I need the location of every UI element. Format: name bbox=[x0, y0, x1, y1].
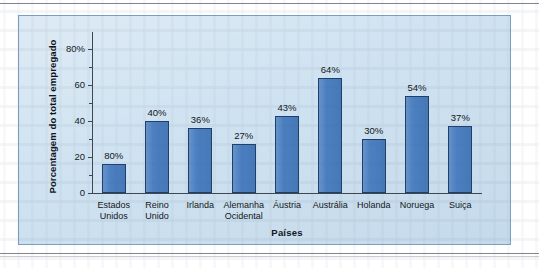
category-label-line: Ocidental bbox=[217, 211, 271, 222]
bar bbox=[405, 96, 429, 193]
y-axis-line bbox=[92, 32, 93, 194]
bar bbox=[448, 126, 472, 193]
bar bbox=[362, 139, 386, 193]
bar-value-label: 80% bbox=[90, 151, 138, 161]
bar-value-label: 36% bbox=[176, 115, 224, 125]
page-rule-bottom-secondary bbox=[0, 256, 539, 257]
x-axis-line bbox=[92, 193, 482, 194]
x-axis-title: Países bbox=[92, 227, 482, 238]
bar-value-label: 27% bbox=[220, 131, 268, 141]
page-rule-bottom bbox=[0, 253, 539, 254]
y-tick-minor-50 bbox=[89, 103, 92, 104]
bar bbox=[318, 78, 342, 193]
bar bbox=[102, 164, 126, 193]
category-label: Suiça bbox=[433, 200, 487, 211]
y-tick-label-60: 60 bbox=[53, 80, 85, 90]
chart-panel: 020406080% Porcentagem do total empregad… bbox=[18, 15, 511, 245]
bar bbox=[275, 116, 299, 193]
y-tick-minor-10 bbox=[89, 175, 92, 176]
bar-value-label: 30% bbox=[350, 126, 398, 136]
y-tick-label-20: 20 bbox=[53, 152, 85, 162]
category-label-line: Suiça bbox=[433, 200, 487, 211]
category-label-line: Unido bbox=[130, 211, 184, 222]
bar-value-label: 37% bbox=[436, 113, 484, 123]
y-tick-label-0: 0 bbox=[53, 188, 85, 198]
y-tick-0 bbox=[88, 193, 92, 194]
y-tick-label-80: 80% bbox=[53, 44, 85, 54]
y-tick-60 bbox=[88, 85, 92, 86]
bar-value-label: 64% bbox=[306, 65, 354, 75]
bar bbox=[232, 144, 256, 193]
bar-value-label: 40% bbox=[133, 108, 181, 118]
y-tick-label-40: 40 bbox=[53, 116, 85, 126]
bar-value-label: 43% bbox=[263, 103, 311, 113]
y-tick-minor-30 bbox=[89, 139, 92, 140]
bar bbox=[145, 121, 169, 193]
page-rule-top bbox=[0, 3, 539, 4]
y-tick-40 bbox=[88, 121, 92, 122]
bar bbox=[188, 128, 212, 193]
y-tick-minor-70 bbox=[89, 67, 92, 68]
bar-chart-plot: 020406080% Porcentagem do total empregad… bbox=[19, 16, 512, 246]
y-axis-title: Porcentagem do total empregado bbox=[47, 37, 58, 197]
y-tick-80 bbox=[88, 49, 92, 50]
bar-value-label: 54% bbox=[393, 83, 441, 93]
